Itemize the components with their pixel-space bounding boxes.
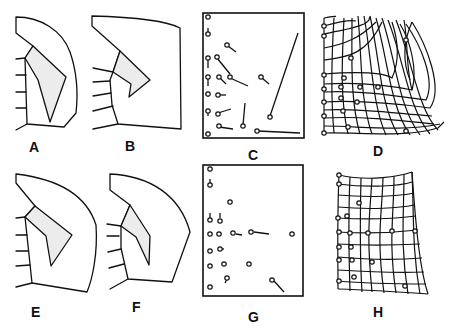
panel-f: F <box>107 174 190 315</box>
panel-e-label: E <box>31 304 40 320</box>
panel-f-ticks <box>107 224 128 289</box>
panel-d-deformation-grid <box>324 16 444 135</box>
panel-f-label: F <box>132 299 141 315</box>
panel-h: H <box>336 172 428 320</box>
panel-b: B <box>92 16 181 154</box>
panel-b-ticks <box>93 68 118 129</box>
panel-a-shaded-region <box>25 46 66 122</box>
panel-e: E <box>16 174 96 320</box>
panel-h-label: H <box>373 304 383 320</box>
panel-g-label: G <box>248 309 259 325</box>
panel-f-outline <box>110 174 190 282</box>
figure-canvas: A B <box>0 0 458 332</box>
panel-b-shaded-region <box>113 51 150 97</box>
panel-a: A <box>16 17 77 155</box>
panel-g: G <box>203 165 303 325</box>
panel-a-label: A <box>29 139 39 155</box>
panel-f-shaded-region <box>121 205 150 265</box>
panel-e-ticks <box>16 217 32 287</box>
panel-c-label: C <box>248 147 258 163</box>
panel-b-label: B <box>125 138 135 154</box>
panel-c: C <box>203 13 304 163</box>
panel-e-shaded-region <box>25 206 72 266</box>
panel-d-label: D <box>373 143 383 159</box>
panel-d: D <box>322 16 444 159</box>
